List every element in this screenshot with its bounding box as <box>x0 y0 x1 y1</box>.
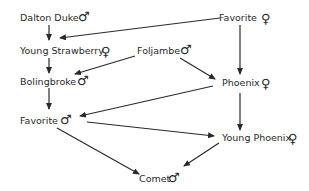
edges-layer <box>0 0 309 191</box>
node-label: Bolingbroke <box>20 76 76 87</box>
edge-favorite-stallion-to-comet <box>57 128 139 174</box>
node-phoenix: Phoenix <box>222 77 260 89</box>
node-comet: Comet <box>139 173 170 185</box>
node-label: Foljambe <box>137 45 180 56</box>
male-symbol-icon: ♂ <box>60 113 72 126</box>
female-symbol-icon: ♀ <box>261 77 271 90</box>
node-favorite-stallion: Favorite <box>20 115 58 127</box>
node-label: Young Phoenix <box>222 132 291 143</box>
node-label: Favorite <box>219 12 257 23</box>
node-young-strawberry: Young Strawberry <box>20 45 104 57</box>
node-bolingbroke: Bolingbroke <box>20 76 76 88</box>
node-label: Phoenix <box>222 77 260 88</box>
male-symbol-icon: ♂ <box>77 74 89 87</box>
node-dalton-duke: Dalton Duke <box>20 12 79 24</box>
pedigree-diagram: Dalton Duke ♂ Favorite ♀ Young Strawberr… <box>0 0 309 191</box>
male-symbol-icon: ♂ <box>180 43 192 56</box>
female-symbol-icon: ♀ <box>288 132 298 145</box>
node-label: Comet <box>139 173 170 184</box>
edge-favorite-stallion-to-young-phoenix <box>87 122 214 136</box>
male-symbol-icon: ♂ <box>168 171 180 184</box>
node-favorite-mare: Favorite <box>219 12 257 24</box>
edge-phoenix-to-favorite-stallion <box>80 86 213 116</box>
edge-foljambe-to-phoenix <box>180 58 215 79</box>
node-label: Favorite <box>20 115 58 126</box>
female-symbol-icon: ♀ <box>261 12 271 25</box>
female-symbol-icon: ♀ <box>101 45 111 58</box>
node-label: Young Strawberry <box>20 45 104 56</box>
node-foljambe: Foljambe <box>137 45 180 57</box>
node-young-phoenix: Young Phoenix <box>222 132 291 144</box>
male-symbol-icon: ♂ <box>78 10 90 23</box>
node-label: Dalton Duke <box>20 12 79 23</box>
edge-young-phoenix-to-comet <box>184 143 219 166</box>
